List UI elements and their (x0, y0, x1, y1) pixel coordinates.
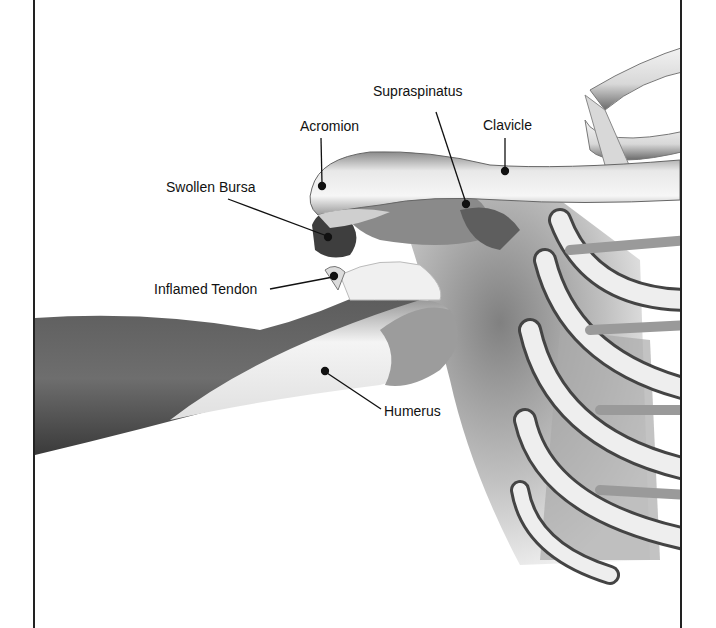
label-humerus: Humerus (384, 403, 441, 419)
label-swollen-bursa: Swollen Bursa (166, 179, 256, 195)
label-inflamed-tendon: Inflamed Tendon (154, 281, 257, 297)
label-supraspinatus: Supraspinatus (373, 83, 463, 99)
label-acromion: Acromion (300, 118, 359, 134)
label-clavicle: Clavicle (483, 117, 532, 133)
shoulder-illustration (0, 0, 716, 628)
